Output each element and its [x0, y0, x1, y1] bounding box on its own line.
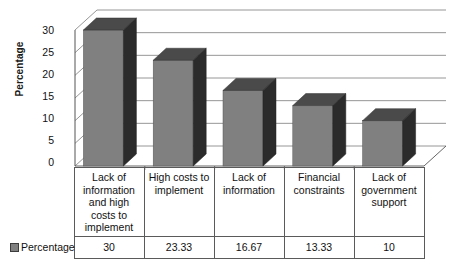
value-cell-0: 30 — [74, 236, 144, 258]
category-header-3: Financial constraints — [284, 168, 354, 237]
table-row-headers: Lack of information and high costs to im… — [8, 168, 424, 237]
bar-chart: Percentage 30 25 20 15 10 5 0 Lack of in… — [0, 0, 456, 268]
bar-1 — [153, 48, 206, 166]
value-cell-2: 16.67 — [214, 236, 284, 258]
legend-label: Percentage — [21, 241, 75, 253]
bar-2 — [223, 78, 276, 166]
category-header-4: Lack of government support — [354, 168, 424, 237]
category-header-2: Lack of information — [214, 168, 284, 237]
table-row-values: Percentage 30 23.33 16.67 13.33 10 — [8, 236, 424, 258]
table-corner-blank — [8, 168, 74, 237]
category-header-1: High costs to implement — [144, 168, 214, 237]
bar-4 — [363, 109, 416, 166]
legend-entry: Percentage — [8, 236, 74, 258]
bar-3 — [293, 94, 346, 166]
value-cell-4: 10 — [354, 236, 424, 258]
bar-0 — [83, 18, 136, 166]
data-table: Lack of information and high costs to im… — [8, 167, 425, 259]
category-header-0: Lack of information and high costs to im… — [74, 168, 144, 237]
legend-swatch-icon — [10, 243, 19, 252]
value-cell-1: 23.33 — [144, 236, 214, 258]
value-cell-3: 13.33 — [284, 236, 354, 258]
